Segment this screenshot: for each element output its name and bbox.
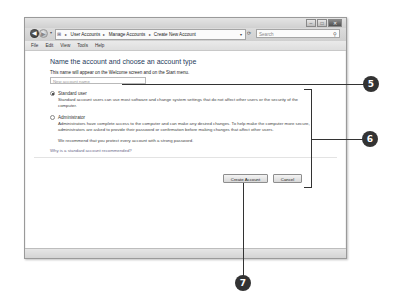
- address-dropdown-icon[interactable]: ▾: [240, 30, 242, 39]
- menu-edit[interactable]: Edit: [45, 41, 53, 50]
- explorer-window: – □ ✕ ◀ ▶ ▾ ⊞ ▸ User Accounts ▸ Manage A…: [24, 17, 347, 259]
- callout-7-line: [243, 183, 244, 276]
- menu-tools[interactable]: Tools: [77, 41, 88, 50]
- create-account-button[interactable]: Create Account: [223, 174, 268, 183]
- administrator-radio[interactable]: [50, 115, 55, 120]
- callout-6-line: [311, 139, 363, 140]
- search-input[interactable]: Search ⚲: [256, 29, 340, 38]
- maximize-button[interactable]: □: [317, 19, 327, 27]
- cancel-button[interactable]: Cancel: [273, 174, 302, 183]
- breadcrumb-separator[interactable]: ▸: [149, 32, 151, 37]
- page-title: Name the account and choose an account t…: [50, 58, 196, 65]
- button-separator: [34, 157, 337, 158]
- forward-button[interactable]: ▶: [39, 29, 48, 38]
- breadcrumb-create-new-account[interactable]: Create New Account: [154, 32, 196, 37]
- standard-user-label[interactable]: Standard user: [58, 91, 87, 96]
- standard-account-help-link[interactable]: Why is a standard account recommended?: [50, 148, 132, 153]
- control-panel-icon: ⊞: [56, 30, 62, 39]
- refresh-icon[interactable]: ⟳: [247, 30, 251, 36]
- callout-6-bracket: [311, 89, 312, 187]
- title-bar: – □ ✕: [25, 18, 346, 28]
- account-name-input[interactable]: New account name: [50, 77, 146, 84]
- name-instruction: This name will appear on the Welcome scr…: [50, 70, 189, 75]
- standard-user-description: Standard account users can use most soft…: [58, 97, 310, 109]
- navigation-bar: ◀ ▶ ▾ ⊞ ▸ User Accounts ▸ Manage Account…: [25, 28, 346, 41]
- administrator-option[interactable]: Administrator: [50, 115, 85, 120]
- breadcrumb-separator[interactable]: ▸: [103, 32, 105, 37]
- standard-user-option[interactable]: Standard user: [50, 91, 87, 96]
- search-placeholder: Search: [259, 32, 274, 37]
- back-button[interactable]: ◀: [30, 29, 39, 38]
- search-icon[interactable]: ⚲: [333, 30, 337, 39]
- administrator-label[interactable]: Administrator: [58, 115, 85, 120]
- close-button[interactable]: ✕: [328, 19, 342, 27]
- administrator-description: Administrators have complete access to t…: [58, 121, 310, 133]
- breadcrumb-user-accounts[interactable]: User Accounts: [71, 32, 101, 37]
- callout-7-badge: 7: [235, 275, 251, 291]
- callout-6-badge: 6: [362, 131, 378, 147]
- menu-help[interactable]: Help: [95, 41, 104, 50]
- minimize-button[interactable]: –: [306, 19, 316, 27]
- menu-file[interactable]: File: [31, 41, 38, 50]
- recent-pages-dropdown-icon[interactable]: ▾: [50, 30, 52, 35]
- password-recommendation: We recommend that you protect every acco…: [58, 138, 193, 143]
- standard-user-radio[interactable]: [50, 91, 55, 96]
- breadcrumb-separator[interactable]: ▸: [65, 32, 67, 37]
- callout-5-badge: 5: [363, 76, 379, 92]
- callout-6-bracket-bottom: [304, 187, 312, 188]
- menu-bar: File Edit View Tools Help: [25, 41, 346, 51]
- menu-view[interactable]: View: [60, 41, 70, 50]
- address-bar[interactable]: ⊞ ▸ User Accounts ▸ Manage Accounts ▸ Cr…: [55, 29, 246, 40]
- callout-5-line: [122, 84, 364, 85]
- breadcrumb-manage-accounts[interactable]: Manage Accounts: [109, 32, 146, 37]
- status-bar: [25, 248, 346, 258]
- content-pane: Name the account and choose an account t…: [26, 51, 345, 248]
